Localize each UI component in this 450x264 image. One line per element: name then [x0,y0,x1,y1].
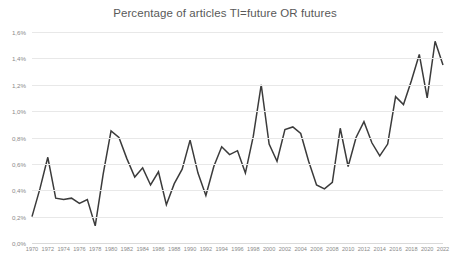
x-axis-tick-label: 2014 [374,246,386,252]
x-axis-tick-label: 1986 [152,246,164,252]
y-axis-tick-label: 0,6% [12,160,26,167]
line-chart: Percentage of articles TI=future OR futu… [0,0,450,264]
x-axis-tick-label: 2012 [358,246,370,252]
series-line [32,41,443,226]
x-axis-tick-label: 1996 [231,246,243,252]
gridline [32,58,443,59]
gridline [32,217,443,218]
x-axis-tick-label: 1982 [121,246,133,252]
y-axis-tick-label: 0,0% [12,240,26,247]
y-axis-tick-label: 0,8% [12,134,26,141]
gridline [32,85,443,86]
x-axis-tick-label: 2006 [310,246,322,252]
x-axis-tick-label: 2002 [279,246,291,252]
x-axis-tick-label: 2000 [263,246,275,252]
x-axis-tick-label: 1988 [168,246,180,252]
plot-area [32,32,443,243]
y-axis-tick-label: 1,0% [12,108,26,115]
gridline [32,138,443,139]
x-axis-tick-label: 2016 [389,246,401,252]
y-axis-tick-label: 1,6% [12,29,26,36]
x-axis-tick-label: 1992 [200,246,212,252]
x-axis-tick-label: 1970 [26,246,38,252]
x-axis: 1970197219741976197819801982198419861988… [32,246,443,260]
gridline [32,32,443,33]
x-axis-tick-label: 2018 [405,246,417,252]
x-axis-tick-label: 1994 [215,246,227,252]
gridline [32,164,443,165]
x-axis-tick-label: 1998 [247,246,259,252]
y-axis-tick-label: 1,2% [12,81,26,88]
x-axis-tick-label: 2004 [294,246,306,252]
x-axis-tick-label: 1984 [136,246,148,252]
gridline [32,190,443,191]
chart-title: Percentage of articles TI=future OR futu… [0,7,450,19]
x-axis-tick-label: 1990 [184,246,196,252]
x-axis-tick-label: 1976 [73,246,85,252]
x-axis-tick-label: 1974 [57,246,69,252]
x-axis-line [32,243,443,244]
x-axis-tick-label: 1980 [105,246,117,252]
x-axis-tick-label: 2010 [342,246,354,252]
x-axis-tick-label: 1978 [89,246,101,252]
y-axis-tick-label: 0,2% [12,213,26,220]
x-axis-tick-label: 1972 [42,246,54,252]
y-axis-tick-label: 0,4% [12,187,26,194]
x-axis-tick-label: 2020 [421,246,433,252]
y-axis: 0,0%0,2%0,4%0,6%0,8%1,0%1,2%1,4%1,6% [0,32,30,243]
gridline [32,111,443,112]
x-axis-tick-label: 2008 [326,246,338,252]
x-axis-tick-label: 2022 [437,246,449,252]
y-axis-tick-label: 1,4% [12,55,26,62]
